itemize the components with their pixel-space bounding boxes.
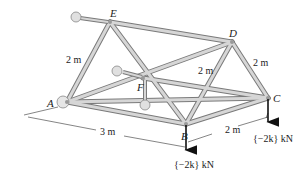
joint-label-e: E [110,8,117,19]
support-e [71,12,108,22]
load-label-b: {−2k} kN [174,160,214,170]
joint-label-c: C [273,93,280,104]
dimension-ae: 2 m [66,55,81,65]
load-label-c: {−2k} kN [253,134,293,144]
truss-members [67,22,268,124]
dimension-bc: 2 m [225,125,240,135]
joint-label-a: A [47,98,54,109]
dimension-ab: 3 m [100,127,115,137]
joint-label-d: D [229,28,237,39]
joint-label-b: B [181,131,188,142]
dimension-dc: 2 m [253,58,268,68]
truss-diagram: E D A B C F 2 m 2 m 2 m 3 m 2 m {−2k} kN… [0,0,308,189]
joints [65,20,270,126]
joint-label-f: F [137,82,144,93]
dimension-df: 2 m [198,66,213,76]
